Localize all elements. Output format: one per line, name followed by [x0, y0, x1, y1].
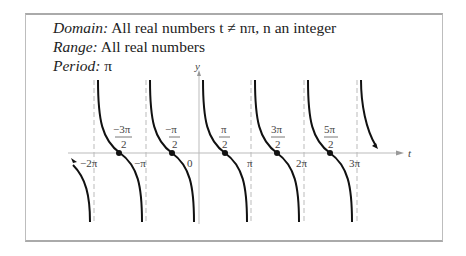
- tick-neg-pi: −π: [134, 157, 146, 169]
- zero-label-pi-2: π 2: [219, 123, 230, 150]
- x-axis-label: t: [408, 147, 412, 159]
- cotangent-graph: y t −2π −π 0 π 2π 3π −3π 2 −π 2 π 2 3π 2…: [0, 0, 466, 256]
- svg-text:5π: 5π: [324, 123, 336, 135]
- tick-pi: π: [247, 157, 253, 169]
- svg-text:3π: 3π: [271, 123, 283, 135]
- zero-label-neg-3pi-2: −3π 2: [113, 123, 132, 150]
- tick-2pi: 2π: [296, 157, 308, 169]
- tick-neg-2pi: −2π: [80, 157, 98, 169]
- tick-3pi: 3π: [349, 157, 361, 169]
- y-axis-label: y: [194, 60, 200, 72]
- zero-label-3pi-2: 3π 2: [271, 123, 285, 150]
- zero-label-5pi-2: 5π 2: [324, 123, 338, 150]
- zero-label-neg-pi-2: −π 2: [165, 123, 180, 150]
- svg-text:−π: −π: [165, 123, 177, 135]
- svg-text:2: 2: [275, 138, 281, 150]
- curve-arrow-right-icon: [372, 143, 378, 149]
- tick-zero: 0: [187, 157, 193, 169]
- svg-text:2: 2: [222, 138, 228, 150]
- svg-text:2: 2: [121, 138, 127, 150]
- x-axis-arrow-icon: [396, 151, 404, 156]
- svg-text:π: π: [221, 123, 227, 135]
- svg-text:2: 2: [328, 138, 334, 150]
- curve-arrow-left-icon: [71, 158, 77, 163]
- svg-text:2: 2: [172, 138, 178, 150]
- svg-text:−3π: −3π: [113, 123, 131, 135]
